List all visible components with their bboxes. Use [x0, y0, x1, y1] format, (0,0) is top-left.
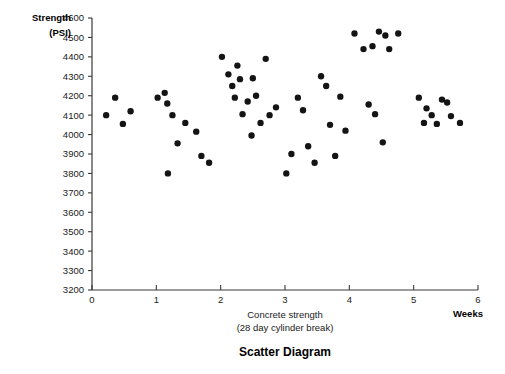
data-point: [154, 94, 160, 100]
x-tick-label: 3: [282, 294, 287, 305]
data-point: [372, 111, 378, 117]
x-axis-unit-label: Weeks: [453, 308, 483, 319]
x-axis-title-line2: (28 day cylinder break): [237, 322, 334, 333]
data-point: [234, 62, 240, 68]
y-tick-label: 4200: [63, 90, 84, 101]
data-point: [311, 160, 317, 166]
data-point: [434, 121, 440, 127]
data-point: [273, 104, 279, 110]
data-point: [169, 112, 175, 118]
y-tick-label: 4000: [63, 129, 84, 140]
data-point: [444, 99, 450, 105]
x-tick-label: 4: [347, 294, 352, 305]
data-point: [457, 120, 463, 126]
data-point: [395, 30, 401, 36]
x-tick-label: 6: [475, 294, 480, 305]
x-tick-label: 0: [89, 294, 94, 305]
y-tick-label: 3800: [63, 168, 84, 179]
data-point: [423, 105, 429, 111]
data-point: [206, 160, 212, 166]
data-point: [164, 100, 170, 106]
x-tick-label: 1: [154, 294, 159, 305]
data-point: [229, 83, 235, 89]
data-point: [288, 151, 294, 157]
data-point: [198, 153, 204, 159]
data-point: [342, 128, 348, 134]
y-tick-label: 4100: [63, 110, 84, 121]
chart-canvas: 3200330034003500360037003800390040004100…: [0, 0, 505, 374]
data-point: [165, 170, 171, 176]
y-tick-label: 3600: [63, 207, 84, 218]
data-point: [250, 75, 256, 81]
data-point: [225, 71, 231, 77]
data-point: [318, 73, 324, 79]
data-point: [237, 76, 243, 82]
data-point: [162, 90, 168, 96]
data-point: [429, 112, 435, 118]
data-point: [337, 94, 343, 100]
data-point: [283, 170, 289, 176]
data-point: [300, 107, 306, 113]
data-point: [266, 112, 272, 118]
data-point: [219, 54, 225, 60]
data-point: [386, 46, 392, 52]
data-point: [323, 83, 329, 89]
data-point: [380, 139, 386, 145]
y-tick-label: 3400: [63, 246, 84, 257]
data-point: [382, 32, 388, 38]
y-axis-title-line1: Strength: [32, 12, 71, 23]
data-point: [263, 56, 269, 62]
data-point: [448, 113, 454, 119]
data-point: [232, 94, 238, 100]
y-tick-label: 4300: [63, 71, 84, 82]
data-point: [120, 121, 126, 127]
y-tick-label: 3900: [63, 148, 84, 159]
data-point: [365, 101, 371, 107]
data-point: [182, 120, 188, 126]
y-axis-title-line2: (PSI): [49, 27, 71, 38]
x-axis: 0123456: [89, 285, 480, 305]
data-point: [257, 120, 263, 126]
data-point: [103, 112, 109, 118]
scatter-chart: 3200330034003500360037003800390040004100…: [0, 0, 505, 374]
data-point: [305, 143, 311, 149]
y-axis: 3200330034003500360037003800390040004100…: [63, 12, 92, 295]
chart-title: Scatter Diagram: [239, 345, 331, 359]
data-point: [193, 128, 199, 134]
data-point: [360, 46, 366, 52]
data-point: [127, 108, 133, 114]
data-point: [239, 111, 245, 117]
data-points: [103, 28, 463, 176]
x-tick-label: 5: [411, 294, 416, 305]
data-point: [376, 28, 382, 34]
x-axis-title-line1: Concrete strength: [247, 309, 323, 320]
data-point: [295, 94, 301, 100]
data-point: [174, 140, 180, 146]
data-point: [351, 30, 357, 36]
data-point: [327, 122, 333, 128]
data-point: [332, 153, 338, 159]
data-point: [421, 120, 427, 126]
y-tick-label: 3300: [63, 265, 84, 276]
y-tick-label: 3200: [63, 284, 84, 295]
x-tick-label: 2: [218, 294, 223, 305]
data-point: [369, 43, 375, 49]
data-point: [416, 94, 422, 100]
y-tick-label: 4400: [63, 51, 84, 62]
data-point: [245, 98, 251, 104]
data-point: [248, 132, 254, 138]
data-point: [112, 94, 118, 100]
y-tick-label: 3700: [63, 187, 84, 198]
y-tick-label: 3500: [63, 226, 84, 237]
data-point: [253, 93, 259, 99]
